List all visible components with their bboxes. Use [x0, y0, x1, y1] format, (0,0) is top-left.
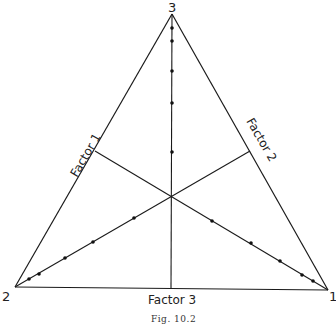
vertex-label-2: 2 — [2, 289, 10, 304]
data-point — [132, 216, 136, 220]
factor-1-label: Factor 1 — [67, 131, 103, 180]
data-point — [63, 256, 67, 260]
data-point — [170, 101, 174, 105]
figure-caption: Fig. 10.2 — [151, 314, 196, 324]
data-point — [300, 273, 304, 277]
data-point — [278, 259, 282, 263]
data-point — [170, 39, 174, 43]
data-point — [311, 279, 315, 283]
factor-2-axis — [15, 151, 250, 287]
triangle-edge-right — [172, 14, 328, 290]
data-point — [91, 240, 95, 244]
data-point — [249, 241, 253, 245]
vertex-label-3: 3 — [168, 0, 176, 15]
data-point — [170, 69, 174, 73]
factor-2-label: Factor 2 — [243, 116, 279, 165]
data-point — [210, 219, 214, 223]
ternary-factor-diagram: 3 2 1 Factor 1 Factor 2 Factor 3 Fig. 10… — [0, 0, 336, 325]
data-point — [37, 272, 41, 276]
data-point — [170, 150, 174, 154]
data-point — [27, 277, 31, 281]
factor-3-label: Factor 3 — [148, 293, 196, 307]
data-point — [170, 26, 174, 30]
vertex-label-1: 1 — [329, 289, 336, 304]
